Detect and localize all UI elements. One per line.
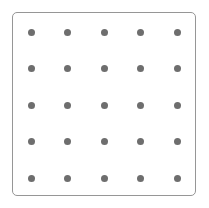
grid-dot bbox=[137, 138, 144, 145]
grid-dot bbox=[101, 138, 108, 145]
grid-dot bbox=[64, 102, 71, 109]
grid-dot bbox=[28, 138, 35, 145]
grid-dot bbox=[28, 29, 35, 36]
grid-dot bbox=[101, 65, 108, 72]
dot-grid-layer bbox=[13, 13, 195, 195]
grid-dot bbox=[101, 102, 108, 109]
grid-dot bbox=[64, 29, 71, 36]
grid-dot bbox=[174, 29, 181, 36]
grid-dot bbox=[137, 102, 144, 109]
grid-dot bbox=[64, 65, 71, 72]
grid-dot bbox=[64, 175, 71, 182]
screenshot-canvas bbox=[0, 0, 209, 208]
grid-dot bbox=[28, 65, 35, 72]
grid-dot bbox=[101, 175, 108, 182]
grid-dot bbox=[174, 138, 181, 145]
grid-dot bbox=[28, 102, 35, 109]
grid-dot bbox=[101, 29, 108, 36]
grid-dot bbox=[137, 175, 144, 182]
grid-dot bbox=[137, 29, 144, 36]
grid-dot bbox=[28, 175, 35, 182]
dot-grid-panel bbox=[12, 12, 196, 196]
grid-dot bbox=[137, 65, 144, 72]
grid-dot bbox=[174, 65, 181, 72]
grid-dot bbox=[174, 102, 181, 109]
grid-dot bbox=[174, 175, 181, 182]
grid-dot bbox=[64, 138, 71, 145]
